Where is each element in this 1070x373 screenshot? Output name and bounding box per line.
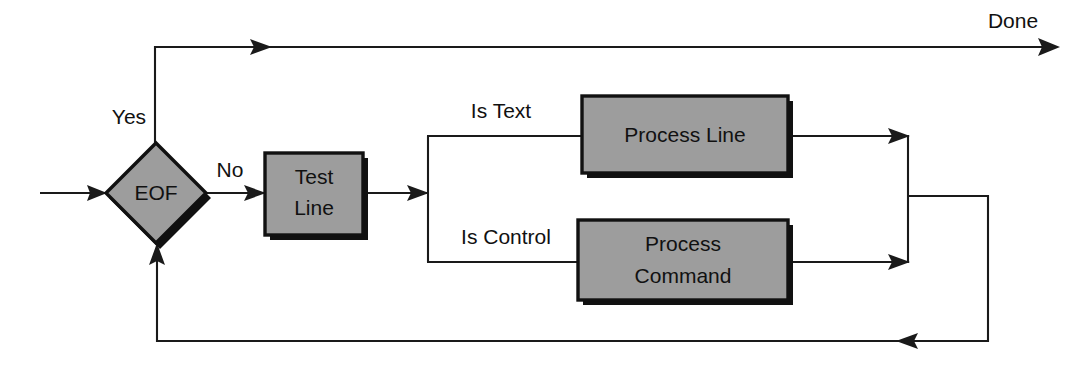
node-process-line-label: Process Line: [624, 123, 745, 146]
flowchart-canvas: EOF Test Line Process Line Process Comma…: [0, 0, 1070, 373]
edge-label-no: No: [217, 158, 244, 181]
node-process-command-label-line1: Process: [645, 232, 721, 255]
edge-label-is-control: Is Control: [461, 225, 551, 248]
node-eof: EOF: [106, 143, 211, 249]
edge-label-is-text: Is Text: [471, 99, 531, 122]
node-process-command: Process Command: [578, 220, 793, 305]
node-test-line-label-line1: Test: [295, 165, 334, 188]
node-test-line-label-line2: Line: [294, 196, 334, 219]
node-eof-label: EOF: [134, 181, 177, 204]
node-process-line: Process Line: [582, 96, 793, 178]
flowchart-diagram: EOF Test Line Process Line Process Comma…: [0, 0, 1070, 373]
node-test-line: Test Line: [265, 153, 368, 240]
edge-label-yes: Yes: [112, 105, 146, 128]
node-process-command-label-line2: Command: [635, 264, 732, 287]
edge-label-done: Done: [988, 9, 1038, 32]
